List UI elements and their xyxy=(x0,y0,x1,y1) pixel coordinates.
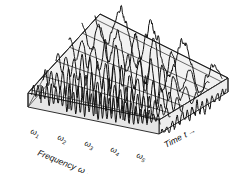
label-omega-2: ω2 xyxy=(56,133,69,146)
frequency-axis-title-group: Frequencyω→ xyxy=(36,148,96,174)
frequency-axis-title-text: Frequency xyxy=(36,148,78,173)
label-omega-4: ω4 xyxy=(109,145,122,158)
time-axis-title-text: Time xyxy=(162,132,184,150)
figure-canvas: ω1 ω2 ω3 ω4 ω5 Frequencyω→ Timet→ xyxy=(0,0,243,174)
label-omega-5: ω5 xyxy=(135,151,148,164)
label-omega-5-sub: 5 xyxy=(141,157,147,164)
label-omega-3-sub: 3 xyxy=(89,145,95,152)
label-omega-1: ω1 xyxy=(29,127,42,140)
waterfall-spectrum-figure: ω1 ω2 ω3 ω4 ω5 Frequencyω→ Timet→ xyxy=(0,0,243,174)
frequency-axis-arrow: → xyxy=(84,167,96,174)
label-omega-3: ω3 xyxy=(83,139,96,152)
frequency-axis-title: Frequencyω→ xyxy=(36,148,96,174)
